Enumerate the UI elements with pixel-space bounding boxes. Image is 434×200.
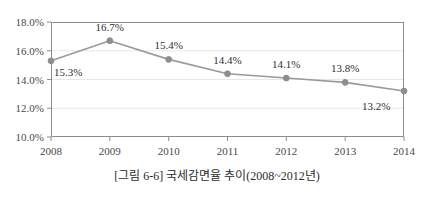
- data-point-label: 14.1%: [272, 59, 300, 70]
- y-tick-marks-group: [47, 22, 51, 137]
- data-point-label: 13.8%: [331, 63, 359, 74]
- data-point-label: 16.7%: [96, 22, 124, 33]
- x-axis-tick-label: 2012: [275, 146, 297, 157]
- chart-canvas: [0, 0, 434, 165]
- x-tick-marks-group: [51, 137, 404, 141]
- y-axis-tick-label: 10.0%: [16, 132, 44, 143]
- x-axis-tick-label: 2014: [393, 146, 415, 157]
- data-point-label: 15.4%: [154, 40, 182, 51]
- x-axis-tick-label: 2009: [99, 146, 121, 157]
- data-point-marker: [283, 75, 289, 81]
- data-point-label: 13.2%: [362, 101, 390, 112]
- y-axis-tick-label: 14.0%: [16, 74, 44, 85]
- figure-caption: [그림 6-6] 국세감면율 추이(2008~2012년): [0, 168, 434, 184]
- x-axis-tick-label: 2008: [40, 146, 62, 157]
- data-point-marker: [48, 58, 54, 64]
- y-axis-tick-label: 18.0%: [16, 17, 44, 28]
- x-axis-tick-label: 2013: [334, 146, 356, 157]
- data-point-label: 14.4%: [213, 55, 241, 66]
- data-point-marker: [342, 79, 348, 85]
- line-chart: 10.0%12.0%14.0%16.0%18.0% 20082009201020…: [0, 0, 434, 165]
- data-point-marker: [107, 38, 113, 44]
- figure-container: 10.0%12.0%14.0%16.0%18.0% 20082009201020…: [0, 0, 434, 200]
- x-axis-tick-label: 2011: [217, 146, 239, 157]
- data-point-marker: [225, 71, 231, 77]
- x-axis-tick-label: 2010: [158, 146, 180, 157]
- data-point-marker: [166, 56, 172, 62]
- y-axis-tick-label: 12.0%: [16, 103, 44, 114]
- y-axis-tick-label: 16.0%: [16, 45, 44, 56]
- data-point-label: 15.3%: [54, 67, 82, 78]
- data-point-marker: [401, 88, 407, 94]
